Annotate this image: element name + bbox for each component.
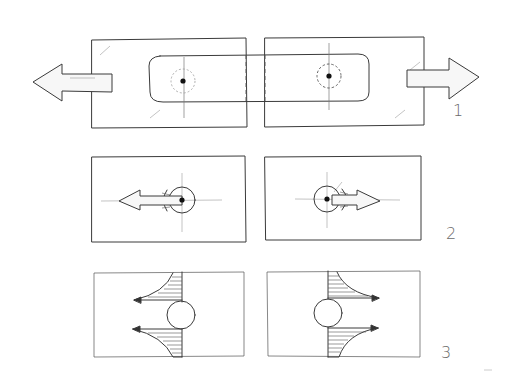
right-force-arrow-icon <box>407 58 479 99</box>
row-2-label: 2 <box>446 224 456 243</box>
right-pin-icon <box>326 73 331 78</box>
row3-right-hole <box>314 299 342 327</box>
row-3-label: 3 <box>441 343 451 362</box>
row2-right-arrow-icon <box>332 190 380 210</box>
left-pin-icon <box>180 78 185 83</box>
left-plate <box>92 38 247 128</box>
left-force-arrow-icon <box>33 64 112 101</box>
row2-right-pin-icon <box>324 196 329 201</box>
row2-left-arrow-icon <box>119 190 182 210</box>
diagram-canvas <box>0 0 506 377</box>
row2-left-pin-icon <box>179 197 184 202</box>
row3-left-hole <box>167 301 195 329</box>
row-2 <box>92 156 421 242</box>
connecting-strap <box>149 54 369 102</box>
row-1 <box>33 37 479 128</box>
row-1-label: 1 <box>453 101 463 120</box>
row-3 <box>94 271 420 357</box>
